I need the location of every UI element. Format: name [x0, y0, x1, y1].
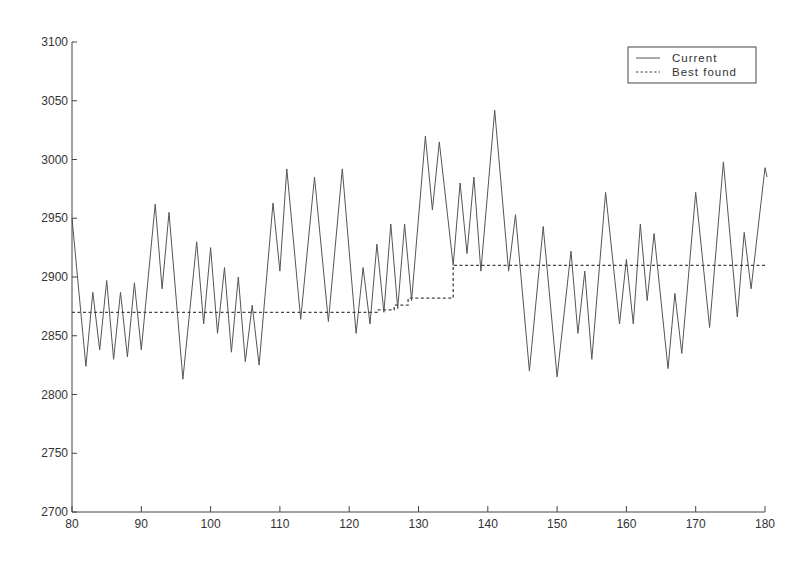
y-tick-label: 2850 — [41, 329, 68, 343]
y-tick-label: 3050 — [41, 94, 68, 108]
plot-area: 8090100110120130140150160170180 27002750… — [41, 35, 775, 531]
x-tick-label: 170 — [686, 517, 706, 531]
x-tick-label: 160 — [616, 517, 636, 531]
legend-label-current: Current — [672, 52, 717, 64]
x-tick-label: 110 — [270, 517, 289, 531]
x-tick-label: 150 — [547, 517, 567, 531]
x-axis-ticks: 8090100110120130140150160170180 — [65, 506, 775, 531]
legend: Current Best found — [628, 47, 756, 83]
y-tick-label: 2800 — [41, 388, 68, 402]
line-chart: 8090100110120130140150160170180 27002750… — [0, 0, 800, 563]
legend-label-best-found: Best found — [672, 66, 737, 78]
x-tick-label: 180 — [755, 517, 775, 531]
x-tick-label: 80 — [65, 517, 79, 531]
axes — [72, 42, 765, 512]
x-tick-label: 140 — [478, 517, 498, 531]
series-layer — [72, 110, 767, 379]
x-tick-label: 90 — [135, 517, 149, 531]
y-tick-label: 2750 — [41, 446, 68, 460]
x-tick-label: 130 — [408, 517, 428, 531]
y-tick-label: 2950 — [41, 211, 68, 225]
y-tick-label: 3000 — [41, 153, 68, 167]
y-tick-label: 2900 — [41, 270, 68, 284]
y-tick-label: 2700 — [41, 505, 68, 519]
x-tick-label: 120 — [339, 517, 359, 531]
y-tick-label: 3100 — [41, 35, 68, 49]
series-current — [72, 110, 767, 379]
x-tick-label: 100 — [201, 517, 221, 531]
